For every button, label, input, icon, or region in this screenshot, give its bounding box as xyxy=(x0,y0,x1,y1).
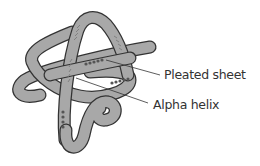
ribbon-lower-curl xyxy=(66,102,115,147)
pleated-sheet-label: Pleated sheet xyxy=(164,67,246,82)
protein-diagram xyxy=(0,0,260,166)
alpha-helix-label: Alpha helix xyxy=(153,97,219,112)
